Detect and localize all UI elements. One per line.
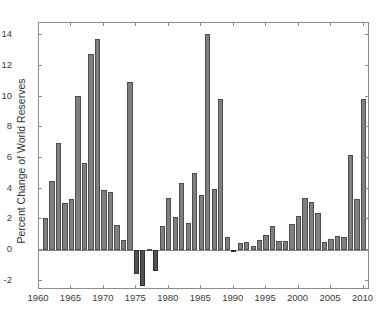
y-axis-title: Percent Change of World Reserves [15,36,27,286]
y-tick-label: 4 [0,183,12,193]
x-tick-label: 1985 [190,293,211,303]
bar [186,223,191,250]
y-tick-mark-right [365,218,369,219]
x-tick-mark [103,285,104,289]
y-tick-mark [38,188,42,189]
y-tick-mark-right [365,126,369,127]
x-tick-mark-top [200,22,201,26]
y-tick-mark [38,280,42,281]
bar [270,226,275,250]
figure: Percent Change of World Reserves -202468… [0,0,384,321]
bar [244,242,249,250]
y-tick-mark-right [365,188,369,189]
bar [335,236,340,251]
y-tick-mark [38,249,42,250]
y-tick-mark-right [365,34,369,35]
x-tick-mark [363,285,364,289]
bar [62,203,67,250]
y-tick-mark [38,96,42,97]
x-tick-label: 1965 [60,293,81,303]
x-tick-mark-top [363,22,364,26]
bar [296,216,301,251]
y-tick-mark-right [365,96,369,97]
bar-series [39,23,368,288]
bar [218,99,223,250]
x-tick-mark-top [265,22,266,26]
y-tick-label: 2 [0,214,12,224]
y-tick-mark [38,34,42,35]
bar [173,217,178,250]
x-tick-mark [38,285,39,289]
y-tick-mark [38,218,42,219]
bar [361,99,366,250]
y-tick-mark-right [365,157,369,158]
bar [276,241,281,250]
bar [212,189,217,250]
bar [251,246,256,250]
bar [192,173,197,250]
x-tick-mark-top [135,22,136,26]
bar [263,235,268,250]
bar [166,198,171,250]
bar [82,163,87,250]
x-tick-mark-top [233,22,234,26]
x-tick-mark [265,285,266,289]
x-tick-label: 1960 [27,293,48,303]
bar [95,39,100,250]
bar [257,240,262,250]
bar [147,249,152,251]
x-tick-mark [233,285,234,289]
y-tick-mark [38,157,42,158]
bar [49,181,54,250]
y-tick-label: 14 [0,30,12,40]
bar [134,250,139,274]
bar [88,54,93,250]
bar [108,192,113,250]
bar [140,250,145,286]
x-tick-mark [135,285,136,289]
x-tick-label: 2000 [287,293,308,303]
x-tick-mark [298,285,299,289]
x-tick-label: 1995 [255,293,276,303]
y-tick-label: 12 [0,60,12,70]
bar [114,225,119,250]
bar [315,213,320,250]
y-tick-label: 6 [0,152,12,162]
x-tick-label: 1970 [92,293,113,303]
bar [160,226,165,251]
y-tick-mark-right [365,280,369,281]
x-tick-label: 2005 [319,293,340,303]
y-tick-label: -2 [0,275,12,285]
bar [309,202,314,250]
y-tick-mark-right [365,65,369,66]
x-tick-mark-top [70,22,71,26]
bar [289,224,294,250]
bar [199,195,204,250]
bar [225,237,230,250]
bar [43,218,48,250]
x-tick-label: 1990 [222,293,243,303]
bar [238,243,243,250]
bar [348,155,353,250]
y-tick-mark [38,65,42,66]
x-tick-label: 1975 [125,293,146,303]
x-tick-label: 1980 [157,293,178,303]
x-tick-mark [200,285,201,289]
bar [283,241,288,250]
y-tick-label: 10 [0,91,12,101]
x-tick-mark-top [330,22,331,26]
bar [75,96,80,250]
plot-area [38,22,369,289]
bar [322,242,327,250]
x-tick-mark-top [103,22,104,26]
x-tick-mark [330,285,331,289]
bar [328,239,333,251]
x-tick-mark [168,285,169,289]
bar [153,250,158,271]
y-tick-mark-right [365,249,369,250]
x-tick-mark-top [38,22,39,26]
x-tick-label: 2010 [352,293,373,303]
bar [127,82,132,250]
bar [179,183,184,251]
y-tick-label: 8 [0,122,12,132]
